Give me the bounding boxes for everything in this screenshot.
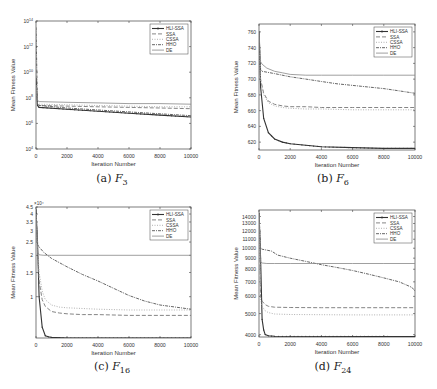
y-tick-label: 10000 <box>242 245 256 251</box>
caption-b: (b) F6 <box>233 172 433 187</box>
legend-entry: CSSA <box>166 223 179 228</box>
legend: HLI-SSASSACSSAHHODE <box>150 210 188 240</box>
chart-b: 0200040006000800010000620640660680700720… <box>218 0 437 195</box>
y-tick-label: 680 <box>248 92 257 98</box>
y-axis-label: Mean Fitness Value <box>233 60 239 113</box>
legend-entry: HHO <box>390 45 401 50</box>
legend-entry: HHO <box>390 231 401 236</box>
legend-entry: DE <box>390 237 396 242</box>
y-tick-label: 1014 <box>23 18 33 25</box>
y-tick-label: 11000 <box>242 236 256 242</box>
x-tick-label: 6000 <box>123 342 135 348</box>
x-tick-label: 0 <box>35 153 38 159</box>
legend-entry: SSA <box>166 218 176 223</box>
y-tick-label: 12000 <box>242 228 256 234</box>
x-tick-label: 0 <box>258 341 261 347</box>
y-tick-label: 14000 <box>242 214 256 220</box>
legend-entry: SSA <box>166 32 176 37</box>
x-tick-label: 10000 <box>184 342 199 348</box>
legend: HLI-SSASSACSSAHHODE <box>150 24 188 54</box>
x-axis-label: Iteration Number <box>315 162 360 168</box>
x-tick-label: 0 <box>258 154 261 160</box>
x-tick-label: 8000 <box>378 341 390 347</box>
legend-entry: DE <box>166 234 172 239</box>
chart-panel-d: 0200040006000800010000400050006000700080… <box>218 195 437 389</box>
x-tick-label: 8000 <box>154 342 166 348</box>
chart-panel-b: 0200040006000800010000620640660680700720… <box>218 0 437 195</box>
y-tick-label: 660 <box>248 108 257 114</box>
caption-a: (a) F3 <box>12 172 212 187</box>
x-tick-label: 2000 <box>284 341 296 347</box>
y-tick-label: 4000 <box>245 332 256 338</box>
y-tick-label: 1.5 <box>26 270 33 276</box>
chart-panel-a: 0200040006000800010000104106108101010121… <box>0 0 218 195</box>
legend-entry: HLI-SSA <box>390 215 409 220</box>
y-tick-label: 640 <box>248 123 257 129</box>
x-tick-label: 6000 <box>347 341 359 347</box>
y-tick-label: 9000 <box>245 255 256 261</box>
y-tick-label: 2 <box>30 252 33 258</box>
y-axis-label: Mean Fitness Value <box>10 58 16 111</box>
y-tick-label: 720 <box>248 60 257 66</box>
legend-entry: CSSA <box>390 226 403 231</box>
legend-entry: HHO <box>166 228 177 233</box>
y-tick-label: 106 <box>25 120 33 127</box>
x-tick-label: 8000 <box>378 154 390 160</box>
x-tick-label: 4000 <box>316 341 328 347</box>
y-tick-label: 1 <box>30 294 33 300</box>
y-tick-label: 1012 <box>23 43 33 50</box>
legend-entry: HLI-SSA <box>166 212 185 217</box>
caption-c: (c) F16 <box>12 360 212 375</box>
legend-entry: HLI-SSA <box>390 29 409 34</box>
x-tick-label: 4000 <box>92 342 104 348</box>
y-tick-label: 740 <box>248 45 257 51</box>
chart-a: 0200040006000800010000104106108101010121… <box>0 0 218 195</box>
y-tick-label: 4.5 <box>26 204 33 210</box>
legend-entry: SSA <box>390 221 400 226</box>
legend: HLI-SSASSACSSAHHODE <box>374 27 412 57</box>
legend-entry: HLI-SSA <box>166 26 185 31</box>
legend-entry: CSSA <box>166 37 179 42</box>
y-tick-label: 8000 <box>245 266 256 272</box>
y-tick-label: 3.5 <box>26 219 33 225</box>
x-axis-label: Iteration Number <box>91 161 136 167</box>
x-tick-label: 2000 <box>61 153 73 159</box>
x-tick-label: 6000 <box>123 153 135 159</box>
y-tick-label: 104 <box>25 146 33 153</box>
caption-d: (d) F24 <box>233 360 433 375</box>
legend-entry: DE <box>390 51 396 56</box>
y-tick-label: 1010 <box>23 69 33 76</box>
legend-entry: HHO <box>166 42 177 47</box>
y-axis-label: Mean Fitness Value <box>233 247 239 300</box>
x-tick-label: 2000 <box>61 342 73 348</box>
y-axis-label: Mean Fitness Value <box>10 246 16 299</box>
y-tick-label: 7000 <box>245 279 256 285</box>
chart-panel-c: 020004000600080001000011.522.533.544.5×1… <box>0 195 218 389</box>
y-multiplier: ×10⁴ <box>34 201 44 206</box>
x-tick-label: 10000 <box>408 154 423 160</box>
x-axis-label: Iteration Number <box>91 350 136 356</box>
y-tick-label: 6000 <box>245 293 256 299</box>
y-tick-label: 620 <box>248 139 257 145</box>
x-tick-label: 2000 <box>284 154 296 160</box>
x-tick-label: 4000 <box>92 153 104 159</box>
x-tick-label: 4000 <box>316 154 328 160</box>
x-tick-label: 10000 <box>408 341 423 347</box>
y-tick-label: 13000 <box>242 220 256 226</box>
legend-entry: CSSA <box>390 40 403 45</box>
y-tick-label: 108 <box>25 94 33 101</box>
y-tick-label: 760 <box>248 29 257 35</box>
legend-entry: SSA <box>390 35 400 40</box>
x-tick-label: 8000 <box>154 153 166 159</box>
y-tick-label: 4 <box>30 211 33 217</box>
x-tick-label: 6000 <box>347 154 359 160</box>
x-axis-label: Iteration Number <box>315 349 360 355</box>
x-tick-label: 10000 <box>184 153 199 159</box>
y-tick-label: 700 <box>248 76 257 82</box>
legend-entry: DE <box>166 48 172 53</box>
y-tick-label: 3 <box>30 228 33 234</box>
legend: HLI-SSASSACSSAHHODE <box>374 213 412 243</box>
y-tick-label: 5000 <box>245 311 256 317</box>
x-tick-label: 0 <box>35 342 38 348</box>
y-tick-label: 2.5 <box>26 239 33 245</box>
